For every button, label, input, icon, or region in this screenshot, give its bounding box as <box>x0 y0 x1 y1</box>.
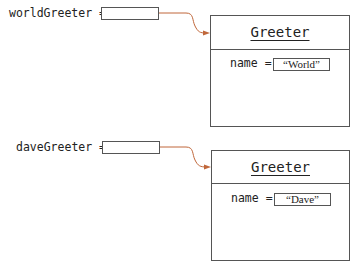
equals-sign: = <box>265 56 272 70</box>
reference-box <box>101 7 159 20</box>
object-class-name: Greeter <box>212 159 349 175</box>
field-value-box: “Dave” <box>274 193 331 206</box>
equals-sign: = <box>266 191 273 205</box>
field-label: name = <box>231 191 273 205</box>
variable-name: daveGreeter <box>16 140 92 154</box>
variable-name: worldGreeter <box>9 6 92 20</box>
reference-box <box>102 141 160 154</box>
field-label: name = <box>230 56 272 70</box>
object-divider <box>212 183 349 184</box>
greeter-object-world: Greeter name = “World” <box>210 15 350 127</box>
greeter-object-dave: Greeter name = “Dave” <box>211 150 350 261</box>
variable-label: daveGreeter = <box>16 140 106 154</box>
field-value: “Dave” <box>286 193 319 205</box>
field-name: name <box>231 191 259 205</box>
variable-label: worldGreeter = <box>9 6 106 20</box>
object-class-name: Greeter <box>211 24 349 40</box>
object-divider <box>211 49 349 50</box>
field-value-box: “World” <box>273 58 330 71</box>
field-name: name <box>230 56 258 70</box>
field-value: “World” <box>283 58 320 70</box>
